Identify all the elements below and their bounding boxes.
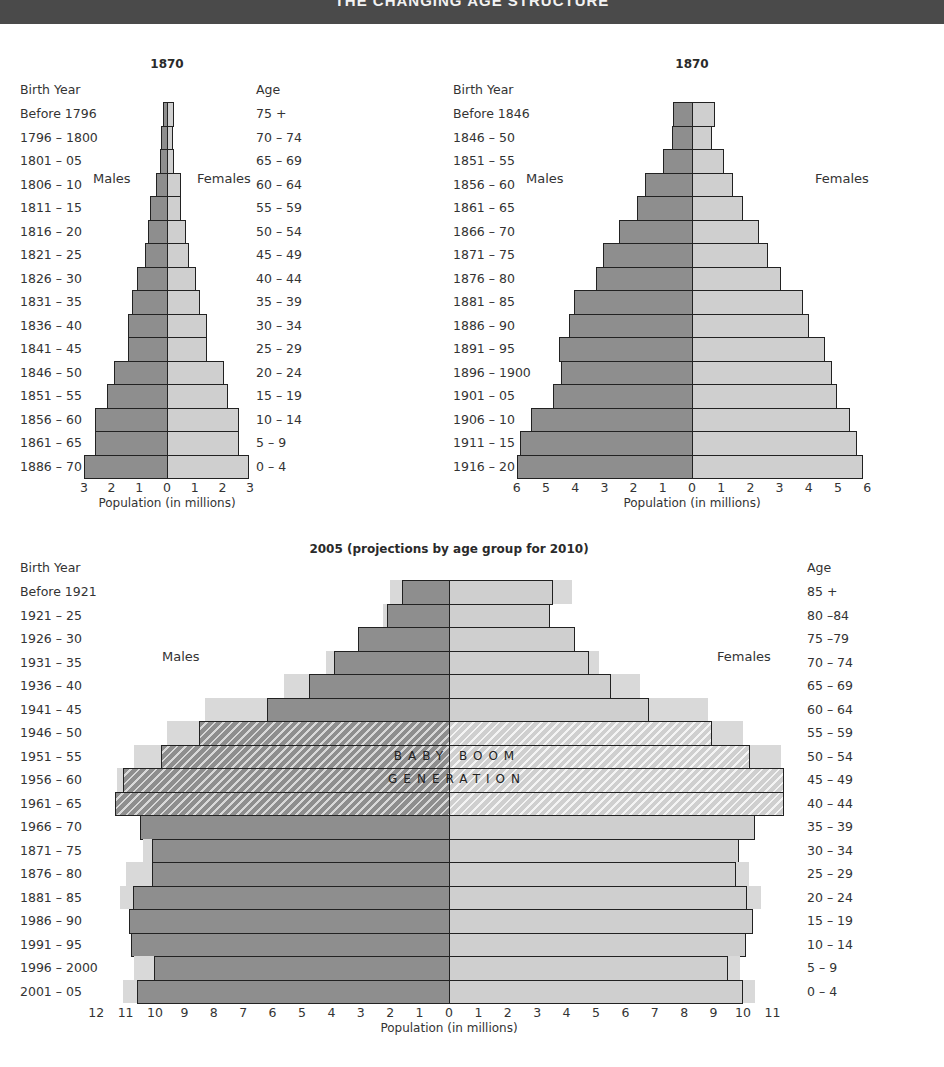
bar-male [645, 173, 693, 198]
birth-year-label: 1886 – 90 [453, 318, 515, 333]
birth-year-label: 1911 – 15 [453, 435, 515, 450]
x-tick-label: 0 [445, 1005, 453, 1020]
birth-year-label: 1906 – 10 [453, 412, 515, 427]
bar-male [637, 196, 693, 221]
birth-year-header: Birth Year [20, 82, 80, 97]
bar-male [152, 862, 450, 887]
birth-year-label: 1901 – 05 [453, 388, 515, 403]
age-label: 5 – 9 [807, 960, 837, 975]
bar-male [309, 674, 450, 699]
age-label: 10 – 14 [807, 937, 853, 952]
x-tick-label: 3 [776, 480, 784, 495]
bar-female [167, 196, 181, 221]
birth-year-header: Birth Year [20, 560, 80, 575]
age-label: 50 – 54 [807, 749, 853, 764]
males-label: Males [162, 649, 200, 664]
age-label: 55 – 59 [256, 200, 302, 215]
x-tick-label: 3 [246, 480, 254, 495]
bar-female [692, 314, 809, 339]
bar-male [672, 126, 693, 151]
bar-male [128, 337, 168, 362]
x-tick-label: 4 [563, 1005, 571, 1020]
females-label: Females [815, 171, 869, 186]
birth-year-header: Birth Year [453, 82, 513, 97]
bar-female [449, 674, 611, 699]
bar-male [137, 267, 168, 292]
age-label: 60 – 64 [807, 702, 853, 717]
birth-year-label: 1836 – 40 [20, 318, 82, 333]
baby-boom-annotation: GENERATION [388, 772, 526, 786]
x-tick-label: 6 [621, 1005, 629, 1020]
x-tick-label: 1 [717, 480, 725, 495]
bar-female [692, 384, 837, 409]
birth-year-label: 1826 – 30 [20, 271, 82, 286]
females-label: Females [717, 649, 771, 664]
age-label: 20 – 24 [807, 890, 853, 905]
age-label: 25 – 29 [256, 341, 302, 356]
birth-year-label: 1801 – 05 [20, 153, 82, 168]
x-tick-label: 11 [118, 1005, 134, 1020]
age-header: Age [256, 82, 280, 97]
bar-female [449, 839, 739, 864]
bar-male [619, 220, 693, 245]
bar-female [449, 862, 736, 887]
x-axis-title: Population (in millions) [380, 1021, 517, 1035]
females-label: Females [197, 171, 251, 186]
x-axis-title: Population (in millions) [98, 496, 235, 510]
x-tick-label: 5 [592, 1005, 600, 1020]
bar-female [449, 815, 755, 840]
x-tick-label: 7 [239, 1005, 247, 1020]
x-tick-label: 2 [746, 480, 754, 495]
bar-female [692, 196, 743, 221]
zero-axis-line [449, 580, 451, 1003]
bar-female [167, 314, 207, 339]
bar-female [449, 627, 575, 652]
bar-female [692, 220, 759, 245]
x-tick-label: 12 [88, 1005, 104, 1020]
x-tick-label: 11 [764, 1005, 780, 1020]
bar-male [603, 243, 693, 268]
bar-female [692, 149, 724, 174]
bar-female [449, 909, 753, 934]
birth-year-label: Before 1796 [20, 106, 97, 121]
age-label: 55 – 59 [807, 725, 853, 740]
bar-female [692, 102, 715, 127]
birth-year-label: 1796 – 1800 [20, 130, 98, 145]
x-tick-label: 6 [269, 1005, 277, 1020]
age-label: 35 – 39 [807, 819, 853, 834]
bar-female [692, 431, 857, 456]
bar-male [517, 455, 693, 480]
birth-year-label: 1821 – 25 [20, 247, 82, 262]
bar-male [520, 431, 693, 456]
bar-male [596, 267, 693, 292]
birth-year-label: 1851 – 55 [20, 388, 82, 403]
x-tick-label: 8 [680, 1005, 688, 1020]
bar-female [449, 721, 712, 746]
birth-year-label: 1996 – 2000 [20, 960, 98, 975]
bar-male [137, 980, 450, 1005]
bar-male [150, 196, 168, 221]
bar-female [167, 102, 174, 127]
bar-female [449, 980, 743, 1005]
age-label: 40 – 44 [256, 271, 302, 286]
x-tick-label: 7 [651, 1005, 659, 1020]
birth-year-label: 1896 – 1900 [453, 365, 531, 380]
bar-male [115, 792, 450, 817]
bar-female [167, 337, 207, 362]
birth-year-label: 1806 – 10 [20, 177, 82, 192]
age-label: 15 – 19 [807, 913, 853, 928]
x-tick-label: 0 [688, 480, 696, 495]
x-tick-label: 5 [542, 480, 550, 495]
bar-male [145, 243, 168, 268]
birth-year-label: 1921 – 25 [20, 608, 82, 623]
birth-year-label: 1861 – 65 [453, 200, 515, 215]
bar-male [553, 384, 693, 409]
chart-title: 1870 [150, 57, 183, 71]
age-label: 15 – 19 [256, 388, 302, 403]
bar-female [692, 243, 768, 268]
x-tick-label: 1 [191, 480, 199, 495]
birth-year-label: 1941 – 45 [20, 702, 82, 717]
bar-female [449, 956, 728, 981]
x-tick-label: 6 [863, 480, 871, 495]
bar-male [358, 627, 450, 652]
